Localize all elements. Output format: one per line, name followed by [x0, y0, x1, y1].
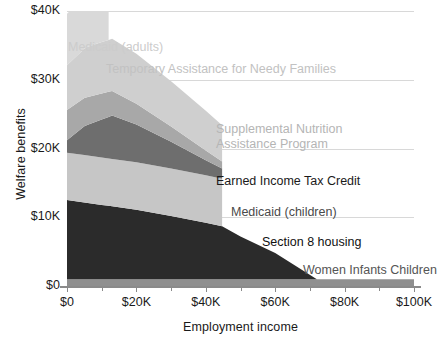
- x-minor-tick-mark: [102, 286, 103, 291]
- x-tick-mark: [206, 286, 207, 292]
- series-label-section-8-housing: Section 8 housing: [262, 235, 361, 250]
- y-axis-title: Welfare benefits: [14, 84, 28, 224]
- x-minor-tick-mark: [379, 286, 380, 291]
- series-label-temporary-assistance-for-needy-families: Temporary Assistance for Needy Families: [106, 62, 336, 77]
- series-label-supplemental-nutrition: Supplemental Nutrition Assistance Progra…: [216, 122, 342, 152]
- x-tick-label: $80K: [315, 295, 375, 309]
- x-tick-mark: [136, 286, 137, 292]
- x-tick-mark: [275, 286, 276, 292]
- area-series-women-infants-children: [67, 279, 414, 286]
- y-tick-label: $0: [8, 278, 60, 292]
- x-axis-title: Employment income: [67, 320, 414, 334]
- series-label-earned-income-tax-credit: Earned Income Tax Credit: [216, 174, 360, 189]
- x-tick-mark: [414, 286, 415, 292]
- x-tick-label: $0: [37, 295, 97, 309]
- x-tick-mark: [67, 286, 68, 292]
- y-tick-label: $40K: [8, 3, 60, 17]
- x-tick-label: $60K: [245, 295, 305, 309]
- x-minor-tick-mark: [241, 286, 242, 291]
- x-minor-tick-mark: [171, 286, 172, 291]
- x-tick-label: $20K: [106, 295, 166, 309]
- series-label-women-infants-children: Women Infants Children: [303, 263, 437, 278]
- welfare-benefits-area-chart: $0$10K$20K$30K$40K $0$20K$40K$60K$80K$10…: [0, 0, 444, 343]
- x-minor-tick-mark: [310, 286, 311, 291]
- series-label-medicaid-adults: Medicaid (adults): [68, 40, 163, 55]
- x-tick-label: $40K: [176, 295, 236, 309]
- x-tick-label: $100K: [384, 295, 444, 309]
- x-tick-mark: [345, 286, 346, 292]
- series-label-medicaid-children: Medicaid (children): [231, 205, 337, 220]
